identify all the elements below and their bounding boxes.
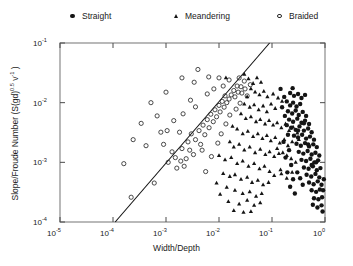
data-point <box>252 161 256 165</box>
data-point <box>311 182 315 186</box>
data-point <box>292 133 296 137</box>
data-point <box>131 138 135 142</box>
data-point <box>245 95 249 99</box>
y-axis-title: Slope/Froude Number (S(gd)0.5 v-1 ) <box>9 33 20 233</box>
data-point <box>278 87 282 91</box>
data-point <box>306 126 310 130</box>
data-point <box>242 148 246 152</box>
y-tick-label: 10-2 <box>33 97 47 108</box>
data-point <box>291 177 295 181</box>
data-point <box>149 101 153 105</box>
data-point <box>241 191 245 195</box>
data-point <box>209 112 213 116</box>
data-point <box>177 130 181 134</box>
data-point <box>302 128 306 132</box>
data-point <box>161 142 165 146</box>
data-point <box>290 111 294 115</box>
data-point <box>318 166 322 170</box>
data-point <box>222 105 226 109</box>
data-point <box>253 90 257 94</box>
data-point <box>248 145 252 149</box>
data-point <box>246 129 250 133</box>
data-point <box>207 75 211 79</box>
data-point <box>173 156 177 160</box>
data-point <box>129 195 133 199</box>
data-point <box>272 173 276 177</box>
data-point <box>191 152 195 156</box>
data-point <box>288 91 292 95</box>
data-point <box>280 99 284 103</box>
data-point <box>293 108 297 112</box>
data-point <box>245 175 249 179</box>
data-point <box>237 142 241 146</box>
data-point <box>230 124 234 128</box>
data-point <box>218 110 222 114</box>
data-point <box>232 88 236 92</box>
data-point <box>258 200 262 204</box>
data-point <box>209 154 213 158</box>
data-point <box>288 185 292 189</box>
data-point <box>257 107 261 111</box>
data-point <box>296 135 300 139</box>
data-point <box>237 202 241 206</box>
data-point <box>263 152 267 156</box>
data-point <box>221 171 225 175</box>
data-point <box>211 120 215 124</box>
data-point <box>193 138 197 142</box>
data-point <box>241 132 245 136</box>
data-point <box>255 76 259 80</box>
data-point <box>289 163 293 167</box>
data-point <box>260 136 264 140</box>
data-point <box>267 149 271 153</box>
data-point <box>144 144 148 148</box>
data-point <box>201 123 205 127</box>
series-braided <box>122 67 253 199</box>
data-point <box>302 121 306 125</box>
data-point <box>320 195 324 199</box>
data-point <box>216 141 220 145</box>
x-tick-label: 10-3 <box>153 227 167 238</box>
data-point <box>233 188 237 192</box>
data-point <box>308 134 312 138</box>
data-point <box>319 183 323 187</box>
data-point <box>234 107 238 111</box>
data-point <box>263 122 267 126</box>
data-point <box>180 146 184 150</box>
data-point <box>184 157 188 161</box>
data-point <box>204 169 208 173</box>
data-point <box>315 145 319 149</box>
data-point <box>301 183 305 187</box>
data-point <box>225 185 229 189</box>
data-point <box>303 93 307 97</box>
data-point <box>232 145 236 149</box>
data-point <box>273 106 277 110</box>
data-point <box>257 93 261 97</box>
data-point <box>242 102 246 106</box>
data-point <box>205 118 209 122</box>
data-point <box>262 89 266 93</box>
data-point <box>170 150 174 154</box>
data-point <box>200 148 204 152</box>
data-point <box>290 140 294 144</box>
data-point <box>309 188 313 192</box>
data-point <box>188 148 192 152</box>
y-tick-label: 10-1 <box>33 37 47 48</box>
data-point <box>246 164 250 168</box>
data-point <box>313 151 317 155</box>
data-point <box>289 156 293 160</box>
data-point <box>192 80 196 84</box>
data-point <box>314 190 318 194</box>
data-point <box>239 177 243 181</box>
data-point <box>261 104 265 108</box>
data-point <box>253 150 257 154</box>
data-point <box>212 87 216 91</box>
data-point <box>311 202 315 206</box>
data-point <box>290 170 294 174</box>
data-point <box>272 154 276 158</box>
data-point <box>188 98 192 102</box>
data-point <box>265 133 269 137</box>
data-point <box>271 92 275 96</box>
data-point <box>249 209 253 213</box>
data-point <box>218 192 222 196</box>
data-point <box>295 170 299 174</box>
